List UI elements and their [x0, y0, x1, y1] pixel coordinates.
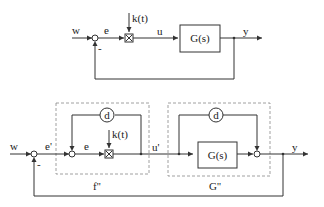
label-kt: k(t) — [132, 12, 148, 25]
label-e: e — [104, 24, 109, 36]
delay-2-label: d — [213, 109, 219, 121]
delay-1-arrowhead — [70, 146, 75, 151]
subsystem-G-label: G'' — [209, 180, 221, 192]
top-diagram: w - e k(t) u G(s) y — [72, 12, 262, 79]
inner-summing-junction — [69, 151, 75, 157]
subsystem-f-label: f'' — [93, 180, 101, 192]
delay-1-label: d — [104, 109, 110, 121]
feedback-arrowhead — [93, 41, 98, 46]
plant-label: G(s) — [208, 149, 228, 162]
delay-2-arrowhead — [255, 146, 260, 151]
summing-junction — [92, 35, 98, 41]
feedback-sign: - — [98, 42, 102, 54]
label-w: w — [72, 24, 80, 36]
label-u-prime: u' — [152, 141, 160, 153]
bottom-diagram: f'' G'' w - e' e k(t) u' d — [10, 103, 308, 196]
feedback-sign: - — [37, 158, 41, 170]
label-kt: k(t) — [112, 128, 128, 141]
outer-summing-junction — [31, 151, 37, 157]
label-y: y — [243, 25, 249, 37]
label-e-prime: e' — [45, 140, 52, 152]
outer-feedback-arrowhead — [32, 157, 37, 162]
right-summing-junction — [254, 151, 260, 157]
label-u: u — [157, 25, 163, 37]
outer-feedback-path — [34, 154, 283, 196]
label-y: y — [292, 141, 298, 153]
block-diagrams: w - e k(t) u G(s) y f'' G'' — [0, 0, 324, 207]
plant-label: G(s) — [190, 32, 210, 45]
label-e: e — [84, 140, 89, 152]
label-w: w — [10, 140, 18, 152]
